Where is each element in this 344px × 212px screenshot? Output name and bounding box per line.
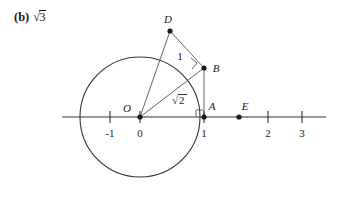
segment-DB bbox=[170, 31, 204, 68]
point-label-A: A bbox=[208, 100, 216, 112]
segment-OD bbox=[140, 31, 170, 117]
tick-label-1: 1 bbox=[201, 127, 207, 139]
point-dot-O bbox=[137, 114, 142, 119]
segment-label-OB-radical-sign: √ bbox=[172, 94, 179, 106]
point-dot-D bbox=[167, 28, 172, 33]
point-dot-E bbox=[236, 114, 241, 119]
segment-label-OB: √ 2 bbox=[172, 94, 187, 106]
tick-label-3: 3 bbox=[299, 127, 305, 139]
segment-label-DB: 1 bbox=[177, 50, 183, 62]
point-label-O: O bbox=[123, 102, 131, 114]
figure-canvas: O A B D E 1 √ 2 -1 0 1 2 3 bbox=[0, 0, 344, 212]
point-label-E: E bbox=[241, 100, 249, 112]
point-dot-B bbox=[201, 65, 206, 70]
geometry-figure-panel: (b)√3 O A B D E bbox=[0, 0, 344, 212]
segment-label-OB-radicand: 2 bbox=[179, 94, 185, 106]
tick-label-0: 0 bbox=[137, 127, 143, 139]
point-dot-A bbox=[201, 114, 206, 119]
tick-label-2: 2 bbox=[265, 127, 271, 139]
tick-label--1: -1 bbox=[105, 127, 114, 139]
point-label-B: B bbox=[213, 62, 220, 74]
point-label-D: D bbox=[163, 13, 172, 25]
